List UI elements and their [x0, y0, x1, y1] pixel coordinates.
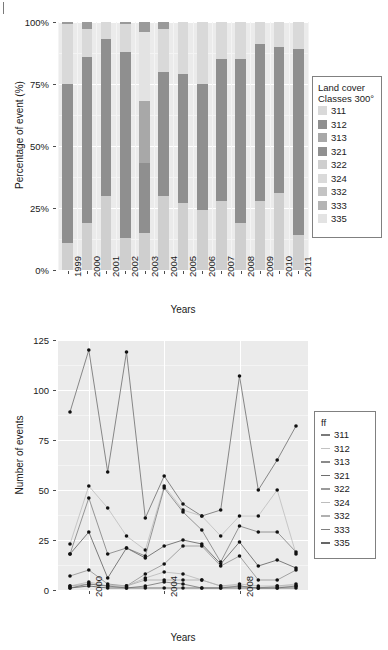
bar-segment[interactable]	[62, 24, 73, 84]
legend-item-313[interactable]: 313	[318, 131, 376, 145]
bar-segment[interactable]	[139, 101, 150, 163]
legend-item-313[interactable]: 313	[321, 455, 370, 469]
bar-segment[interactable]	[158, 22, 169, 29]
bar-segment[interactable]	[120, 24, 131, 51]
bar-gridline-vertical	[270, 22, 271, 270]
bar-gridline-vertical	[77, 22, 78, 270]
bar-segment[interactable]	[101, 39, 112, 195]
legend-item-321[interactable]: 321	[318, 145, 376, 159]
legend-item-335[interactable]: 335	[318, 212, 376, 226]
table-row[interactable]	[255, 22, 266, 270]
bar-segment[interactable]	[62, 84, 73, 243]
table-row[interactable]	[197, 22, 208, 270]
data-point	[162, 562, 166, 566]
legend-line-icon	[321, 525, 330, 534]
line-legend-title: ff	[321, 417, 370, 428]
bar-x-tick-mark	[68, 271, 69, 274]
bar-segment[interactable]	[293, 22, 304, 49]
legend-item-312[interactable]: 312	[318, 118, 376, 132]
table-row[interactable]	[158, 22, 169, 270]
bar-x-tick-mark	[298, 271, 299, 274]
data-point	[219, 586, 223, 590]
table-row[interactable]	[178, 22, 189, 270]
legend-item-333[interactable]: 333	[321, 523, 370, 537]
bar-gridline-vertical	[250, 22, 251, 270]
table-row[interactable]	[274, 22, 285, 270]
bar-segment[interactable]	[235, 59, 246, 223]
bar-segment[interactable]	[120, 52, 131, 238]
line-y-tick-mark	[53, 440, 56, 441]
data-point	[181, 572, 185, 576]
legend-item-label: 321	[334, 470, 350, 481]
bar-y-tick-mark	[53, 22, 56, 23]
legend-item-label: 333	[331, 200, 347, 211]
legend-item-label: 333	[334, 524, 350, 535]
bar-y-tick-mark	[53, 270, 56, 271]
data-point	[144, 516, 148, 520]
bar-segment[interactable]	[197, 84, 208, 210]
legend-item-332[interactable]: 332	[321, 509, 370, 523]
bar-segment[interactable]	[158, 72, 169, 196]
bar-segment[interactable]	[120, 22, 131, 24]
bar-segment[interactable]	[216, 22, 227, 59]
bar-segment[interactable]	[62, 22, 73, 24]
bar-x-axis-title: Years	[58, 304, 308, 315]
bar-segment[interactable]	[274, 47, 285, 193]
bar-segment[interactable]	[139, 22, 150, 32]
table-row[interactable]	[293, 22, 304, 270]
bar-segment[interactable]	[178, 74, 189, 203]
legend-item-322[interactable]: 322	[321, 482, 370, 496]
table-row[interactable]	[62, 22, 73, 270]
table-row[interactable]	[139, 22, 150, 270]
legend-item-335[interactable]: 335	[321, 536, 370, 550]
legend-item-311[interactable]: 311	[321, 428, 370, 442]
data-point	[275, 578, 279, 582]
table-row[interactable]	[235, 22, 246, 270]
bar-segment[interactable]	[82, 57, 93, 223]
data-point	[181, 502, 185, 506]
table-row[interactable]	[216, 22, 227, 270]
legend-item-324[interactable]: 324	[318, 172, 376, 186]
legend-item-312[interactable]: 312	[321, 442, 370, 456]
bar-segment[interactable]	[178, 22, 189, 74]
data-point	[162, 544, 166, 548]
legend-item-332[interactable]: 332	[318, 185, 376, 199]
line-x-tick-label: 2004	[168, 576, 179, 597]
legend-item-321[interactable]: 321	[321, 469, 370, 483]
bar-segment[interactable]	[101, 22, 112, 39]
bar-x-tick-label: 2001	[110, 256, 121, 277]
bar-x-tick-mark	[202, 271, 203, 274]
data-point	[181, 578, 185, 582]
bar-segment[interactable]	[139, 163, 150, 232]
legend-item-311[interactable]: 311	[318, 104, 376, 118]
bar-segment[interactable]	[82, 29, 93, 56]
data-point	[106, 576, 110, 580]
legend-item-label: 311	[331, 105, 346, 116]
line-x-tick-label: 2000	[93, 576, 104, 597]
data-point	[181, 586, 185, 590]
bar-segment[interactable]	[82, 22, 93, 29]
bar-segment[interactable]	[255, 22, 266, 44]
bar-segment[interactable]	[158, 29, 169, 71]
bar-segment[interactable]	[197, 22, 208, 84]
bar-segment[interactable]	[255, 44, 266, 200]
legend-item-333[interactable]: 333	[318, 199, 376, 213]
legend-item-324[interactable]: 324	[321, 496, 370, 510]
data-point	[162, 570, 166, 574]
data-point	[106, 470, 110, 474]
bar-segment[interactable]	[139, 32, 150, 101]
bar-segment[interactable]	[216, 59, 227, 200]
bar-segment[interactable]	[235, 22, 246, 59]
line-legend-items: 311312313321322324332333335	[321, 428, 370, 550]
table-row[interactable]	[120, 22, 131, 270]
data-point	[238, 524, 242, 528]
bar-segment[interactable]	[293, 49, 304, 235]
table-row[interactable]	[101, 22, 112, 270]
data-point	[87, 484, 91, 488]
legend-item-322[interactable]: 322	[318, 158, 376, 172]
data-point	[257, 514, 261, 518]
table-row[interactable]	[82, 22, 93, 270]
bar-segment[interactable]	[274, 22, 285, 47]
data-point	[294, 550, 298, 554]
line-y-tick-mark	[53, 340, 56, 341]
